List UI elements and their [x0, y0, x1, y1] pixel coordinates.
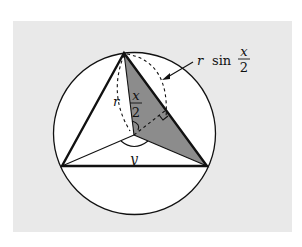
label-central-angle-y: y	[129, 151, 139, 167]
label-half-angle-numerator: x	[132, 88, 140, 103]
callout-label-denominator: 2	[240, 60, 248, 75]
label-half-angle-denominator: 2	[132, 105, 140, 120]
callout-label-r: r	[197, 53, 204, 68]
callout-label-numerator: x	[240, 44, 248, 59]
label-r: r	[113, 94, 120, 109]
callout-label-sin: sin	[212, 53, 232, 68]
inscribed-triangle-diagram: r x 2 y r sin x 2	[0, 0, 302, 247]
